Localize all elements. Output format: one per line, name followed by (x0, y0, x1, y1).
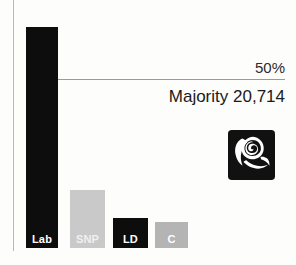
bar-label-lab: Lab (26, 233, 58, 245)
bar-label-c: C (155, 233, 188, 245)
majority-figure-label: Majority 20,714 (169, 86, 285, 107)
bar-c[interactable]: C (155, 222, 188, 248)
bar-ld[interactable]: LD (113, 218, 148, 248)
majority-threshold-line (58, 79, 285, 80)
axis-rule (13, 0, 14, 251)
bar-label-ld: LD (113, 233, 148, 245)
labour-rose-icon (228, 130, 275, 180)
election-bar-chart: Lab SNP LD C 50% Majority 20,714 (0, 0, 296, 265)
bar-label-snp: SNP (70, 233, 105, 245)
bar-lab[interactable]: Lab (26, 27, 58, 248)
bar-snp[interactable]: SNP (70, 190, 105, 248)
threshold-percent-label: 50% (255, 59, 285, 77)
